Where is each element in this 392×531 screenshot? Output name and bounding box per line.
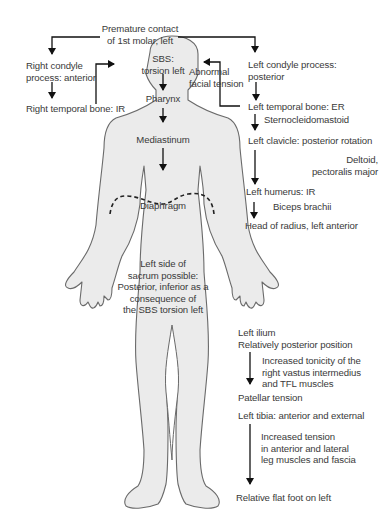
label-line: Increased tension [261, 431, 356, 443]
label-line: torsion left [140, 65, 186, 77]
label-abnormal-tension: Abnormal facial tension [189, 66, 244, 89]
label-line: leg muscles and fascia [261, 454, 356, 466]
label-line: pectoralis major [300, 166, 378, 178]
label-line: Right condyle [26, 60, 96, 72]
label-line: right vastus intermedius [262, 367, 361, 379]
label-biceps: Biceps brachii [273, 201, 331, 213]
arrow-to-right-condyle [52, 37, 100, 54]
label-line: the SBS torsion left [106, 304, 220, 316]
label-line: and TFL muscles [262, 378, 361, 390]
label-tonicity: Increased tonicity of the right vastus i… [262, 355, 361, 390]
label-pharynx: Pharynx [140, 93, 186, 105]
label-right-condyle: Right condyle process: anterior [26, 60, 96, 83]
label-ilium: Left ilium Relatively posterior position [238, 327, 352, 350]
label-deltoid: Deltoid, pectoralis major [300, 154, 378, 177]
label-left-humerus: Left humerus: IR [246, 186, 315, 198]
label-line: SBS: [140, 53, 186, 65]
label-left-condyle: Left condyle process: posterior [248, 59, 337, 82]
label-premature-contact: Premature contact of 1st molar, left [100, 23, 180, 46]
label-diaphragm: Diaphragm [128, 200, 198, 212]
label-tibia: Left tibia: anterior and external [238, 410, 364, 422]
label-radius: Head of radius, left anterior [245, 220, 358, 232]
label-patellar: Patellar tension [238, 392, 303, 404]
label-line: Left condyle process: [248, 59, 337, 71]
label-line: posterior [248, 71, 337, 83]
label-sacrum: Left side of sacrum possible: Posterior,… [106, 258, 220, 316]
label-flatfoot: Relative flat foot on left [236, 492, 331, 504]
label-line: facial tension [189, 78, 244, 90]
label-scm: Sternocleidomastoid [264, 114, 349, 126]
label-mediastinum: Mediastinum [128, 134, 198, 146]
label-line: consequence of [106, 293, 220, 305]
label-line: Increased tonicity of the [262, 355, 361, 367]
label-line: of 1st molar, left [100, 35, 180, 47]
label-line: Relatively posterior position [238, 339, 352, 351]
arrow-right-temporal-to-sbs [96, 64, 114, 104]
label-leg-tension: Increased tension in anterior and latera… [261, 431, 356, 466]
label-line: Posterior, inferior as a [106, 281, 220, 293]
label-line: Abnormal [189, 66, 244, 78]
label-line: Deltoid, [300, 154, 378, 166]
label-sbs: SBS: torsion left [140, 53, 186, 76]
label-line: in anterior and lateral [261, 443, 356, 455]
label-left-clavicle: Left clavicle: posterior rotation [248, 135, 372, 147]
label-line: sacrum possible: [106, 270, 220, 282]
label-right-temporal: Right temporal bone: IR [26, 103, 125, 115]
label-line: process: anterior [26, 72, 96, 84]
label-line: Left ilium [238, 327, 352, 339]
label-line: Premature contact [100, 23, 180, 35]
label-left-temporal: Left temporal bone: ER [248, 101, 344, 113]
label-line: Left side of [106, 258, 220, 270]
